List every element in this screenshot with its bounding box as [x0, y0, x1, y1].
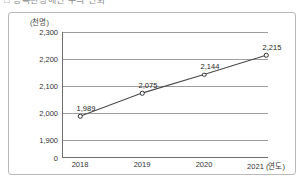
- data-point-2018: [78, 114, 83, 119]
- y-tick-0: 0: [54, 154, 58, 163]
- y-tick-2000: 2,000: [39, 109, 58, 118]
- data-label-2020: 2,144: [201, 62, 220, 71]
- y-tick-2100: 2,100: [39, 82, 58, 91]
- y-tick-2300: 2,300: [39, 28, 58, 37]
- series-line: [62, 32, 268, 154]
- y-axis-ticks: 2,300 2,200 2,100 2,000 1,900 0: [0, 0, 58, 182]
- y-tick-1900: 1,900: [39, 136, 58, 145]
- x-tick-2021: 2021 (연도): [247, 160, 285, 171]
- plot-area: 1,989 2,075 2,144 2,215: [62, 32, 268, 154]
- x-axis-line: [62, 157, 268, 158]
- x-tick-2019: 2019: [134, 160, 151, 169]
- data-label-2018: 1,989: [77, 104, 96, 113]
- data-point-2019: [140, 91, 145, 96]
- data-point-2021: [264, 53, 269, 58]
- data-label-2021: 2,215: [263, 43, 282, 52]
- y-tick-2200: 2,200: [39, 55, 58, 64]
- chart-figure: □ 등록된장애인 수의 변화 (천명) 1,989 2,075 2,144 2,…: [0, 0, 307, 182]
- data-point-2020: [202, 72, 207, 77]
- y-axis-line: [62, 32, 63, 158]
- x-tick-2020: 2020: [196, 160, 213, 169]
- data-label-2019: 2,075: [139, 81, 158, 90]
- x-tick-2018: 2018: [72, 160, 89, 169]
